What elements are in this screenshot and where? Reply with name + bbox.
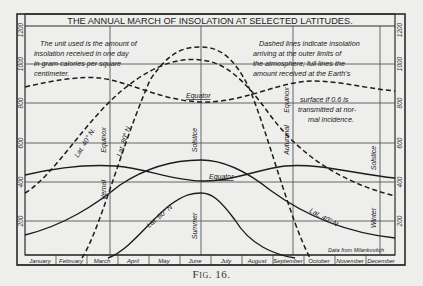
svg-text:May: May [158, 258, 170, 264]
svg-text:surface if 0.6 is: surface if 0.6 is [300, 95, 349, 104]
svg-text:mal incidence.: mal incidence. [308, 115, 354, 124]
y-axis-right: 1200 1000 800 600 400 200 [396, 22, 403, 227]
svg-text:Autumnal: Autumnal [283, 125, 290, 156]
svg-text:200: 200 [17, 215, 24, 227]
svg-text:arriving at the outer limits o: arriving at the outer limits of [253, 49, 342, 58]
lat80-solid-line [108, 193, 295, 258]
svg-text:1000: 1000 [17, 56, 24, 71]
svg-text:Equinox: Equinox [283, 87, 291, 113]
svg-text:November: November [336, 258, 365, 264]
svg-text:400: 400 [17, 176, 24, 187]
svg-text:centimeter.: centimeter. [34, 69, 69, 78]
svg-text:February: February [59, 258, 84, 264]
svg-text:Summer: Summer [191, 212, 198, 239]
svg-text:600: 600 [396, 137, 403, 148]
dashed-lines-note: Dashed lines indicate insolation arrivin… [253, 39, 360, 124]
svg-text:1200: 1200 [396, 22, 403, 37]
svg-text:September: September [273, 258, 303, 264]
svg-text:Vernal: Vernal [100, 180, 107, 200]
svg-text:Equinox: Equinox [100, 127, 108, 153]
svg-text:200: 200 [396, 215, 403, 227]
svg-text:1000: 1000 [396, 56, 403, 71]
svg-text:1200: 1200 [17, 22, 24, 37]
insolation-chart: THE ANNUAL MARCH OF INSOLATION AT SELECT… [0, 0, 423, 286]
y-axis-left: 1200 1000 800 600 400 200 [17, 22, 24, 227]
svg-text:the atmosphere; full lines the: the atmosphere; full lines the [253, 59, 345, 68]
svg-text:Equator: Equator [209, 173, 234, 181]
svg-text:January: January [28, 258, 51, 264]
svg-text:600: 600 [17, 137, 24, 148]
svg-text:800: 800 [396, 97, 403, 108]
svg-text:Dashed lines indicate insolati: Dashed lines indicate insolation [259, 39, 360, 48]
svg-text:Solstice: Solstice [191, 128, 198, 153]
month-labels: January February March April May June Ju… [28, 258, 396, 264]
svg-text:April: April [126, 258, 140, 264]
svg-text:Equator: Equator [186, 92, 211, 100]
lat40-solid-line [25, 160, 395, 238]
svg-text:insolation received in one day: insolation received in one day [34, 49, 129, 58]
svg-text:December: December [367, 258, 396, 264]
svg-text:The unit used is the amount of: The unit used is the amount of [40, 39, 138, 48]
unit-note: The unit used is the amount of insolatio… [34, 39, 138, 78]
svg-text:in gram calories per square: in gram calories per square [34, 59, 121, 68]
chart-title: THE ANNUAL MARCH OF INSOLATION AT SELECT… [67, 16, 352, 26]
svg-text:400: 400 [396, 176, 403, 187]
svg-text:800: 800 [17, 97, 24, 108]
figure-caption: Fig. 16. [0, 268, 423, 280]
svg-text:Winter: Winter [370, 207, 377, 228]
svg-text:Solstice: Solstice [370, 146, 377, 171]
svg-text:June: June [187, 258, 202, 264]
svg-text:August: August [247, 258, 267, 264]
svg-text:transmitted at nor-: transmitted at nor- [298, 105, 357, 114]
svg-text:Lat. 80° N: Lat. 80° N [145, 203, 174, 229]
svg-text:October: October [308, 258, 330, 264]
data-source: Data from Milankovitch [328, 247, 384, 253]
svg-text:July: July [220, 258, 233, 264]
svg-text:Lat. 40° N: Lat. 40° N [309, 207, 341, 228]
svg-text:amount received at the Earth's: amount received at the Earth's [253, 69, 351, 78]
svg-text:Lat. 80° N.: Lat. 80° N. [115, 124, 132, 158]
